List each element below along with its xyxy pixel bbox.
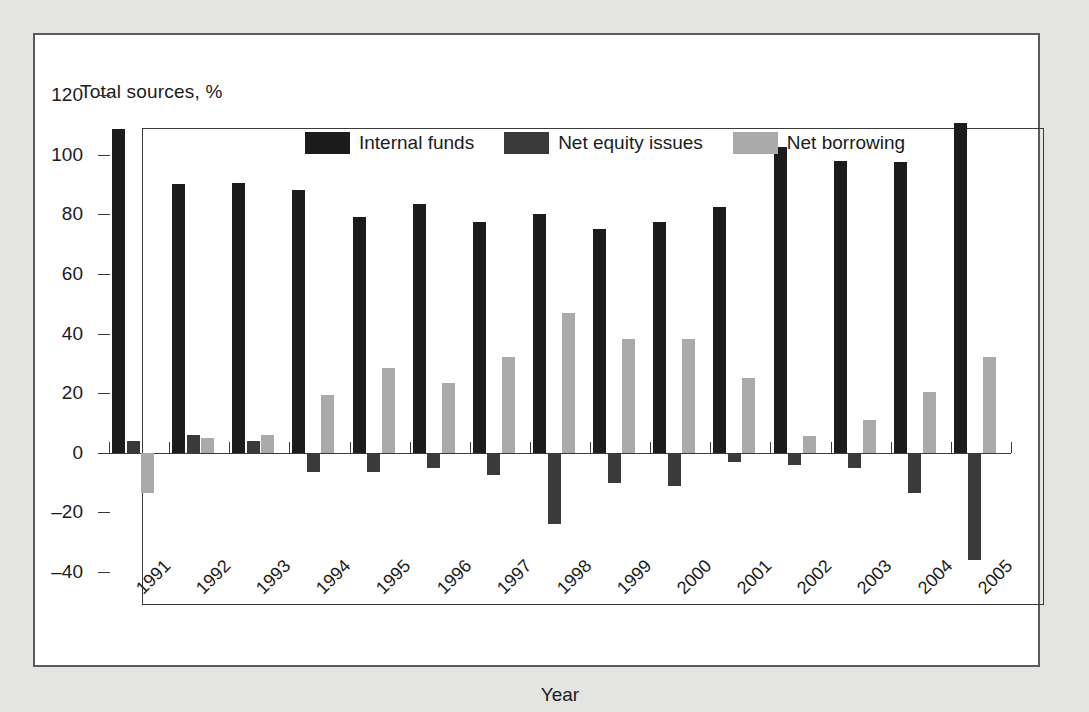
x-tick-mark [169, 442, 170, 453]
bar-net-equity-issues-1993 [247, 441, 260, 453]
x-tick-mark [951, 442, 952, 453]
y-tick-mark [98, 274, 110, 275]
bar-net-equity-issues-2004 [908, 453, 921, 493]
figure-page: Total sources, % 120100806040200–20–40 1… [0, 0, 1089, 712]
x-tick-mark [1011, 442, 1012, 453]
legend-swatch-icon [504, 132, 549, 154]
bar-net-equity-issues-2002 [788, 453, 801, 465]
y-tick-label: 0 [33, 442, 83, 464]
bar-internal-funds-2000 [653, 222, 666, 453]
legend-item-net-borrowing: Net borrowing [733, 132, 905, 154]
legend-item-net-equity-issues: Net equity issues [504, 132, 703, 154]
bar-internal-funds-2003 [834, 161, 847, 453]
x-tick-mark [831, 442, 832, 453]
bar-internal-funds-2005 [954, 123, 967, 452]
x-tick-mark [229, 442, 230, 453]
bar-net-equity-issues-2005 [968, 453, 981, 560]
y-axis-title: Total sources, % [80, 81, 223, 103]
bar-internal-funds-1994 [292, 190, 305, 452]
y-tick-mark [98, 334, 110, 335]
y-tick-mark [98, 572, 110, 573]
bar-net-borrowing-1999 [622, 339, 635, 452]
bar-internal-funds-1993 [232, 183, 245, 453]
bar-net-equity-issues-2001 [728, 453, 741, 462]
y-tick-mark [98, 393, 110, 394]
bar-internal-funds-1996 [413, 204, 426, 453]
x-tick-mark [350, 442, 351, 453]
y-tick-label: 20 [33, 382, 83, 404]
x-tick-mark [650, 442, 651, 453]
legend-item-internal-funds: Internal funds [305, 132, 474, 154]
legend-label: Internal funds [359, 132, 474, 154]
x-tick-mark [470, 442, 471, 453]
bar-net-borrowing-1993 [261, 435, 274, 453]
x-tick-mark [289, 442, 290, 453]
chart-legend: Internal fundsNet equity issuesNet borro… [305, 132, 905, 154]
y-tick-mark [98, 512, 110, 513]
y-tick-label: 80 [33, 203, 83, 225]
bar-net-borrowing-1998 [562, 313, 575, 453]
y-tick-label: –20 [33, 501, 83, 523]
figure-frame: Total sources, % 120100806040200–20–40 1… [33, 33, 1040, 667]
bar-internal-funds-1991 [112, 129, 125, 452]
bar-net-equity-issues-1997 [487, 453, 500, 475]
x-tick-mark [710, 442, 711, 453]
bar-internal-funds-1999 [593, 229, 606, 453]
y-tick-mark [98, 155, 110, 156]
bar-net-borrowing-1991 [141, 453, 154, 493]
x-tick-mark [109, 442, 110, 453]
bar-net-equity-issues-1994 [307, 453, 320, 472]
bar-net-equity-issues-2000 [668, 453, 681, 486]
y-tick-label: 100 [33, 144, 83, 166]
bar-net-equity-issues-1999 [608, 453, 621, 483]
x-tick-mark [530, 442, 531, 453]
bar-net-equity-issues-1992 [187, 435, 200, 453]
x-tick-mark [590, 442, 591, 453]
x-axis-title: Year [109, 684, 1011, 706]
bar-internal-funds-2002 [774, 147, 787, 453]
y-tick-label: 40 [33, 323, 83, 345]
bar-internal-funds-1995 [353, 217, 366, 453]
bar-net-borrowing-1994 [321, 395, 334, 453]
legend-swatch-icon [733, 132, 778, 154]
legend-label: Net equity issues [558, 132, 703, 154]
bar-net-equity-issues-1995 [367, 453, 380, 472]
y-tick-mark [98, 95, 110, 96]
bar-internal-funds-2004 [894, 162, 907, 453]
bar-net-borrowing-1995 [382, 368, 395, 453]
bar-net-borrowing-2003 [863, 420, 876, 453]
y-tick-label: 120 [33, 84, 83, 106]
bar-net-borrowing-2000 [682, 339, 695, 452]
bar-net-equity-issues-1998 [548, 453, 561, 525]
bar-internal-funds-1992 [172, 184, 185, 452]
bar-net-borrowing-2001 [742, 378, 755, 453]
bar-net-borrowing-1992 [201, 438, 214, 453]
bar-net-equity-issues-2003 [848, 453, 861, 468]
x-tick-mark [410, 442, 411, 453]
bar-net-borrowing-2004 [923, 392, 936, 453]
bar-internal-funds-1998 [533, 214, 546, 453]
bar-internal-funds-2001 [713, 207, 726, 453]
x-tick-mark [770, 442, 771, 453]
bar-net-equity-issues-1996 [427, 453, 440, 468]
legend-swatch-icon [305, 132, 350, 154]
bar-net-borrowing-2005 [983, 357, 996, 452]
y-tick-label: –40 [33, 561, 83, 583]
bar-internal-funds-1997 [473, 222, 486, 453]
bar-net-borrowing-2002 [803, 436, 816, 452]
legend-label: Net borrowing [787, 132, 905, 154]
bar-net-equity-issues-1991 [127, 441, 140, 453]
bar-net-borrowing-1996 [442, 383, 455, 453]
x-tick-mark [891, 442, 892, 453]
bar-net-borrowing-1997 [502, 357, 515, 452]
y-tick-label: 60 [33, 263, 83, 285]
y-tick-mark [98, 214, 110, 215]
